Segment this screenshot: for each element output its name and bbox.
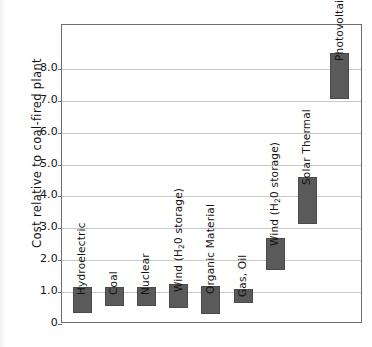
cost-comparison-chart: Cost relative to coal-fired plant 01.02.… [0,0,372,347]
paper-edge [0,0,6,347]
y-axis-tick-label: 6.0 [24,125,58,138]
y-axis-tick [58,260,62,261]
y-axis-tick [58,133,62,134]
y-axis-tick-label: 5.0 [24,157,58,170]
bar-category-label: Nuclear [139,254,151,296]
y-axis-tick-label: 2.0 [24,252,58,265]
plot-area: HydroelectricCoalNuclearWind (H20 storag… [61,24,362,323]
gridline [62,133,361,134]
y-axis-tick-label: 4.0 [24,188,58,201]
y-axis-tick-label: 7.0 [24,93,58,106]
gridline [62,165,361,166]
bar-category-label: Coal [107,271,119,295]
y-axis-tick [58,324,62,325]
y-axis-tick [58,69,62,70]
y-axis-tick-label: 0 [24,316,58,329]
bar-category-label: Photovoltaic [333,0,345,61]
y-axis-tick-labels: 01.02.03.04.05.06.07.08.0 [18,0,58,347]
gridline [62,69,361,70]
y-axis-tick-label: 1.0 [24,284,58,297]
bar-category-label: Wind (H20 storage) [172,188,184,292]
bar-category-label: Hydroelectric [75,223,87,296]
gridline [62,101,361,102]
y-axis-tick [58,196,62,197]
y-axis-tick-label: 8.0 [24,61,58,74]
bar-category-label: Solar Thermal [300,109,312,185]
y-axis-tick-label: 3.0 [24,220,58,233]
y-axis-tick [58,292,62,293]
y-axis-tick [58,228,62,229]
bar-category-label: Gas, Oil [236,254,248,296]
bar-category-label: Organic Material [204,204,216,294]
y-axis-tick [58,165,62,166]
y-axis-tick [58,101,62,102]
bar-category-label: Wind (H20 storage) [268,142,280,246]
